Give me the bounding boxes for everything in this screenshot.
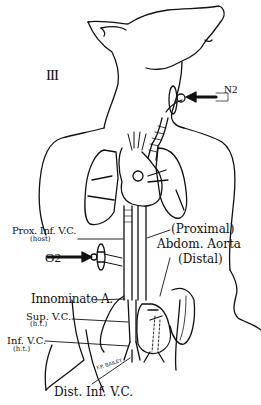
innominate-a-label: Innominate A. — [31, 293, 113, 305]
abdom-aorta-label: Abdom. Aorta — [157, 238, 241, 250]
abdominal-vessels — [78, 206, 170, 300]
o2-label: O2 — [45, 251, 61, 264]
sup-vc-sublabel: (h.t.) — [30, 321, 47, 328]
lungs — [85, 148, 187, 225]
dist-inf-vc-label: Dist. Inf. V.C. — [54, 386, 133, 398]
distal-label: (Distal) — [178, 253, 223, 265]
heart-upper — [119, 132, 168, 206]
prox-inf-vc-sublabel: (host) — [30, 236, 51, 243]
n2-label: N2 — [224, 84, 237, 95]
panel-label: III — [46, 68, 58, 83]
dog-head-outline — [88, 6, 224, 128]
inf-vc-sublabel: (h.t.) — [13, 346, 30, 353]
proximal-label: (Proximal) — [171, 223, 234, 235]
trachea — [148, 100, 182, 160]
